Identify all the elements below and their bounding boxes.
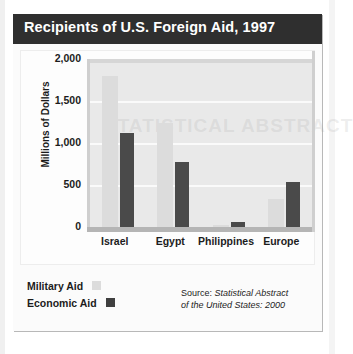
bar-economic (286, 182, 300, 227)
source-note: Source: Statistical Abstract of the Unit… (181, 287, 313, 311)
y-tick-label: 2,000 (35, 53, 81, 64)
x-tick-label: Europe (254, 235, 310, 247)
x-tick-label: Egypt (143, 235, 199, 247)
chart-title: Recipients of U.S. Foreign Aid, 1997 (24, 19, 275, 35)
source-title-line2: of the United States: 2000 (181, 300, 285, 310)
bar-economic (120, 133, 134, 227)
chart-legend: Military AidEconomic Aid (27, 277, 177, 311)
y-tick-label: 0 (35, 221, 81, 232)
source-prefix: Source: (181, 288, 215, 298)
chart-card: Recipients of U.S. Foreign Aid, 1997 Mil… (13, 14, 322, 331)
bar-military (213, 225, 229, 227)
plot-canvas: STATISTICAL ABSTRACT (87, 59, 312, 227)
legend-item[interactable]: Economic Aid (27, 294, 177, 311)
bar-group (102, 59, 134, 227)
y-axis-ticks: 05001,0001,5002,000 (29, 51, 81, 266)
source-title-line1: Statistical Abstract (215, 288, 289, 298)
x-axis-baseline (87, 227, 312, 232)
y-tick-label: 1,000 (35, 137, 81, 148)
plot-right-edge (312, 51, 315, 232)
legend-label: Military Aid (27, 280, 83, 292)
bar-military (157, 123, 173, 227)
y-tick-label: 500 (35, 179, 81, 190)
bar-military (268, 199, 284, 227)
legend-swatch (92, 281, 101, 290)
bar-group (157, 59, 189, 227)
y-tick-label: 1,500 (35, 95, 81, 106)
bar-military (102, 76, 118, 227)
legend-item[interactable]: Military Aid (27, 277, 177, 294)
x-tick-label: Philippines (198, 235, 254, 247)
x-tick-label: Israel (87, 235, 143, 247)
chart-body: Millions of Dollars 05001,0001,5002,000 … (13, 44, 322, 331)
plot-area: Millions of Dollars 05001,0001,5002,000 … (20, 50, 315, 265)
page-edge-right (329, 0, 335, 354)
bar-economic (231, 222, 245, 227)
x-axis-labels: IsraelEgyptPhilippinesEurope (87, 235, 312, 251)
legend-label: Economic Aid (27, 297, 97, 309)
legend-swatch (106, 298, 115, 307)
bar-group (268, 59, 300, 227)
bar-economic (175, 162, 189, 227)
bar-group (213, 59, 245, 227)
page-edge-left (0, 0, 5, 354)
title-band: Recipients of U.S. Foreign Aid, 1997 (13, 14, 322, 44)
